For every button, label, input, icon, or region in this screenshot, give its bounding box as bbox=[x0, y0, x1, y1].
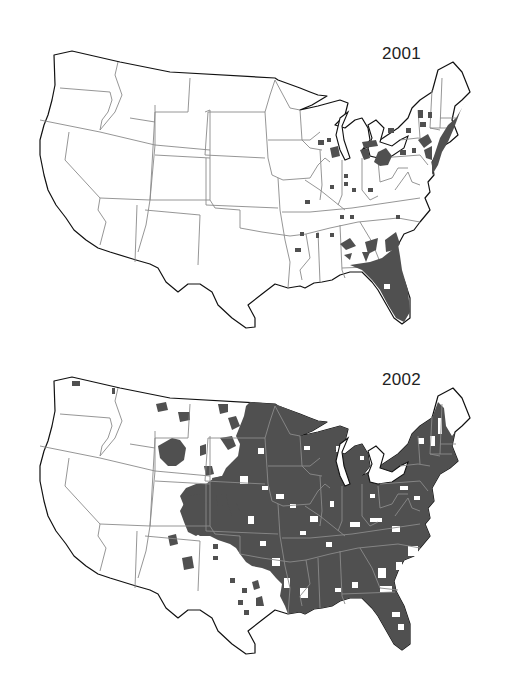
us-map-2001 bbox=[0, 0, 523, 340]
map-panel-2002: 2002 bbox=[0, 340, 523, 683]
map-panel-2001: 2001 bbox=[0, 0, 523, 340]
us-map-2002 bbox=[0, 340, 523, 683]
